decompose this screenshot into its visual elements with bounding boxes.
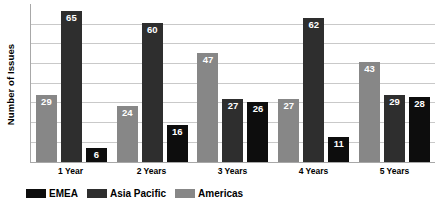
bar-americas-5y[interactable]: 43 xyxy=(359,62,380,162)
bar-emea-5y[interactable]: 28 xyxy=(409,97,430,162)
bar-value-label: 60 xyxy=(142,25,163,35)
bar-value-label: 29 xyxy=(384,97,405,107)
x-axis-label: 3 Years xyxy=(192,165,273,179)
x-axis-label: 2 Years xyxy=(111,165,192,179)
legend-swatch-icon xyxy=(175,189,195,198)
legend-swatch-icon xyxy=(26,189,46,198)
bar-asia-pacific-4y[interactable]: 62 xyxy=(303,18,324,162)
legend-label: Asia Pacific xyxy=(110,188,166,199)
bar-americas-1y[interactable]: 29 xyxy=(36,95,57,162)
bar-group: 246016 xyxy=(112,4,193,162)
bar-emea-3y[interactable]: 26 xyxy=(247,102,268,162)
bar-value-label: 62 xyxy=(303,20,324,30)
bar-value-label: 27 xyxy=(278,101,299,111)
bar-group: 29656 xyxy=(31,4,112,162)
bar-chart: Number of Issues 29656246016472726276211… xyxy=(0,0,437,210)
bar-emea-1y[interactable]: 6 xyxy=(86,148,107,162)
bar-asia-pacific-5y[interactable]: 29 xyxy=(384,95,405,162)
bar-asia-pacific-1y[interactable]: 65 xyxy=(61,11,82,162)
bar-asia-pacific-3y[interactable]: 27 xyxy=(222,99,243,162)
bar-value-label: 43 xyxy=(359,64,380,74)
bar-group: 276211 xyxy=(273,4,354,162)
plot-area: 29656246016472726276211432928 xyxy=(30,4,435,163)
legend-label: Americas xyxy=(198,188,243,199)
bar-value-label: 11 xyxy=(328,139,349,149)
bar-value-label: 16 xyxy=(167,127,188,137)
bar-emea-4y[interactable]: 11 xyxy=(328,137,349,162)
bar-americas-2y[interactable]: 24 xyxy=(117,106,138,162)
bar-value-label: 65 xyxy=(61,13,82,23)
legend-item-asia-pacific[interactable]: Asia Pacific xyxy=(87,188,166,199)
bar-value-label: 47 xyxy=(197,55,218,65)
bar-value-label: 6 xyxy=(86,150,107,160)
bar-emea-2y[interactable]: 16 xyxy=(167,125,188,162)
legend-item-emea[interactable]: EMEA xyxy=(26,188,78,199)
legend-label: EMEA xyxy=(49,188,78,199)
x-axis-label: 5 Years xyxy=(354,165,435,179)
x-axis-labels: 1 Year2 Years3 Years4 Years5 Years xyxy=(30,165,435,179)
legend-item-americas[interactable]: Americas xyxy=(175,188,243,199)
y-axis-title: Number of Issues xyxy=(0,0,22,168)
bar-group: 472726 xyxy=(193,4,274,162)
bar-americas-4y[interactable]: 27 xyxy=(278,99,299,162)
y-axis-title-label: Number of Issues xyxy=(6,43,17,124)
x-axis-label: 1 Year xyxy=(30,165,111,179)
bar-asia-pacific-2y[interactable]: 60 xyxy=(142,23,163,162)
bar-groups: 29656246016472726276211432928 xyxy=(31,4,435,162)
chart-legend: EMEAAsia PacificAmericas xyxy=(26,186,243,201)
bar-value-label: 26 xyxy=(247,104,268,114)
bar-group: 432928 xyxy=(354,4,435,162)
bar-value-label: 24 xyxy=(117,108,138,118)
bar-value-label: 28 xyxy=(409,99,430,109)
x-axis-label: 4 Years xyxy=(273,165,354,179)
bar-value-label: 27 xyxy=(222,101,243,111)
bar-value-label: 29 xyxy=(36,97,57,107)
legend-swatch-icon xyxy=(87,189,107,198)
bar-americas-3y[interactable]: 47 xyxy=(197,53,218,162)
